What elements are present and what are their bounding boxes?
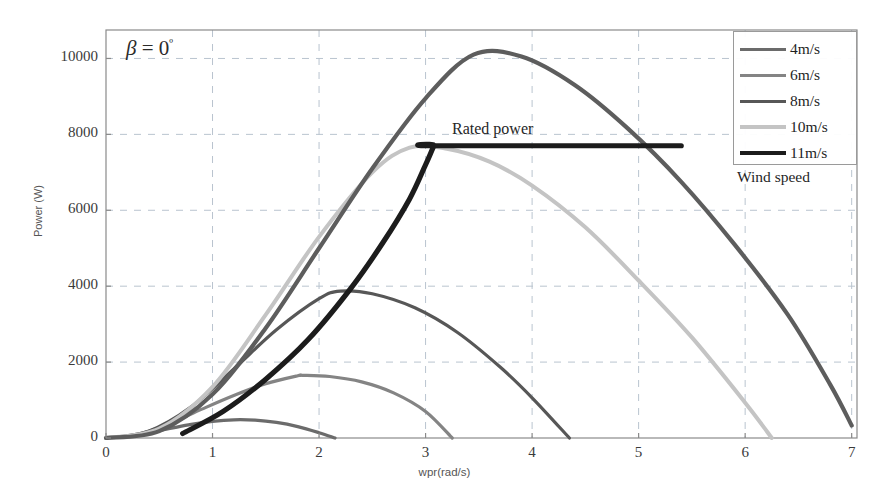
legend-label: 6m/s bbox=[790, 66, 820, 84]
x-tick-label: 6 bbox=[725, 444, 765, 461]
y-tick-label: 6000 bbox=[38, 200, 98, 217]
legend-swatch bbox=[740, 48, 786, 51]
legend-swatch bbox=[740, 125, 786, 129]
legend-label: 4m/s bbox=[790, 40, 820, 58]
legend-swatch bbox=[740, 74, 786, 77]
degree-symbol: º bbox=[169, 36, 173, 50]
x-axis-label: wpr(rad/s) bbox=[0, 466, 889, 478]
legend-box: 4m/s6m/s8m/s10m/s11m/s bbox=[733, 31, 857, 165]
series-8m/s bbox=[106, 291, 569, 438]
legend-label: 11m/s bbox=[790, 144, 827, 162]
x-tick-label: 7 bbox=[832, 444, 872, 461]
rated-power-annotation: Rated power bbox=[452, 120, 533, 138]
y-tick-label: 4000 bbox=[38, 276, 98, 293]
y-tick-label: 0 bbox=[38, 428, 98, 445]
x-tick-label: 0 bbox=[86, 444, 126, 461]
beta-annotation: β = 0º bbox=[126, 36, 173, 61]
y-tick-label: 10000 bbox=[38, 48, 98, 65]
legend-item-8m-s[interactable]: 8m/s bbox=[740, 88, 852, 114]
x-tick-label: 1 bbox=[193, 444, 233, 461]
chart-figure: Power (W) wpr(rad/s) 0200040006000800010… bbox=[0, 0, 889, 500]
series-10m/s bbox=[106, 146, 772, 438]
legend-swatch bbox=[740, 100, 786, 103]
legend-label: 8m/s bbox=[790, 92, 820, 110]
legend-swatch bbox=[740, 151, 786, 155]
y-tick-label: 8000 bbox=[38, 124, 98, 141]
legend-item-6m-s[interactable]: 6m/s bbox=[740, 62, 852, 88]
legend-title: Wind speed bbox=[737, 168, 810, 186]
legend-label: 10m/s bbox=[790, 118, 828, 136]
legend-item-10m-s[interactable]: 10m/s bbox=[740, 114, 852, 140]
y-tick-label: 2000 bbox=[38, 352, 98, 369]
beta-symbol: β bbox=[126, 36, 136, 60]
x-tick-label: 2 bbox=[299, 444, 339, 461]
legend-item-4m-s[interactable]: 4m/s bbox=[740, 36, 852, 62]
series-11m/s bbox=[183, 144, 682, 433]
beta-equals: = 0 bbox=[136, 36, 169, 60]
x-tick-label: 5 bbox=[619, 444, 659, 461]
x-tick-label: 4 bbox=[512, 444, 552, 461]
legend-item-11m-s[interactable]: 11m/s bbox=[740, 140, 852, 166]
x-tick-label: 3 bbox=[406, 444, 446, 461]
